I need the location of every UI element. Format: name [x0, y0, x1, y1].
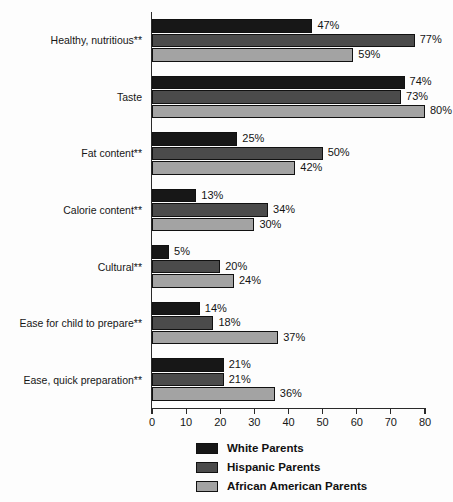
category-label: Taste — [0, 91, 142, 103]
bar-value-label: 59% — [358, 48, 380, 61]
bar — [152, 105, 425, 119]
bar-value-label: 13% — [201, 189, 223, 202]
category-label: Ease, quick preparation** — [0, 374, 142, 386]
x-tick-40 — [288, 409, 289, 414]
bar — [152, 189, 196, 203]
bar-value-label: 25% — [242, 132, 264, 145]
x-tick-20 — [220, 409, 221, 414]
legend-label: African American Parents — [227, 479, 367, 494]
category-label: Calorie content** — [0, 204, 142, 216]
bar-value-label: 5% — [174, 245, 190, 258]
bar-chart: Healthy, nutritious**TasteFat content**C… — [0, 0, 453, 502]
bar-value-label: 50% — [328, 146, 350, 159]
bar-value-label: 73% — [406, 90, 428, 103]
x-tick-30 — [254, 409, 255, 414]
legend-item: Hispanic Parents — [196, 460, 446, 477]
x-tick-10 — [186, 409, 187, 414]
chart-legend: White ParentsHispanic ParentsAfrican Ame… — [196, 441, 446, 498]
bar — [152, 76, 405, 90]
bar-value-label: 77% — [420, 33, 442, 46]
bar — [152, 373, 224, 387]
legend-item: White Parents — [196, 441, 446, 458]
bar-value-label: 24% — [239, 274, 261, 287]
bar — [152, 316, 213, 330]
bar-value-label: 74% — [410, 75, 432, 88]
bar — [152, 132, 237, 146]
bar — [152, 358, 224, 372]
bar-value-label: 20% — [225, 260, 247, 273]
bar — [152, 34, 415, 48]
x-tick-label: 0 — [149, 416, 155, 429]
x-tick-80 — [424, 409, 425, 414]
category-label: Healthy, nutritious** — [0, 34, 142, 46]
legend-label: White Parents — [227, 441, 304, 456]
bar-value-label: 21% — [229, 373, 251, 386]
legend-swatch-icon — [196, 462, 218, 473]
bar — [152, 19, 312, 33]
bar-value-label: 21% — [229, 358, 251, 371]
bar — [152, 302, 200, 316]
x-tick-50 — [322, 409, 323, 414]
category-label: Ease for child to prepare** — [0, 317, 142, 329]
bar-value-label: 47% — [317, 19, 339, 32]
bar — [152, 203, 268, 217]
x-tick-label: 60 — [351, 416, 363, 429]
bar — [152, 387, 275, 401]
bar — [152, 218, 254, 232]
legend-swatch-icon — [196, 443, 218, 454]
bar-value-label: 80% — [430, 104, 452, 117]
x-tick-label: 10 — [180, 416, 192, 429]
legend-label: Hispanic Parents — [227, 460, 320, 475]
legend-item: African American Parents — [196, 479, 446, 496]
bar-value-label: 14% — [205, 302, 227, 315]
x-tick-60 — [356, 409, 357, 414]
bar — [152, 90, 401, 104]
category-label: Cultural** — [0, 261, 142, 273]
x-tick-label: 20 — [214, 416, 226, 429]
bar-value-label: 42% — [300, 161, 322, 174]
legend-swatch-icon — [196, 481, 218, 492]
bar — [152, 245, 169, 259]
bar — [152, 161, 295, 175]
bar — [152, 260, 220, 274]
bar — [152, 331, 278, 345]
plot-area: 01020304050607080 47%77%59%74%73%80%25%5… — [152, 12, 425, 408]
bar-value-label: 18% — [218, 316, 240, 329]
x-tick-0 — [151, 409, 152, 414]
x-tick-label: 70 — [385, 416, 397, 429]
x-tick-label: 80 — [419, 416, 431, 429]
bar — [152, 274, 234, 288]
x-tick-70 — [390, 409, 391, 414]
bar-value-label: 34% — [273, 203, 295, 216]
bar-value-label: 30% — [259, 218, 281, 231]
bar — [152, 48, 353, 62]
category-label: Fat content** — [0, 147, 142, 159]
category-axis-labels: Healthy, nutritious**TasteFat content**C… — [0, 12, 146, 408]
bar-value-label: 37% — [283, 331, 305, 344]
bar-value-label: 36% — [280, 387, 302, 400]
x-tick-label: 50 — [317, 416, 329, 429]
x-tick-label: 30 — [248, 416, 260, 429]
bar — [152, 147, 323, 161]
x-tick-label: 40 — [282, 416, 294, 429]
